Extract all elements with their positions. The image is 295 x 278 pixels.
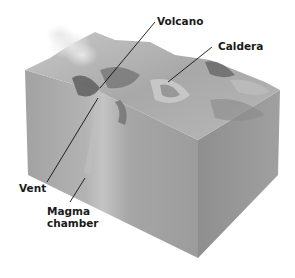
label-magma-line1: Magma [47, 205, 99, 217]
label-caldera: Caldera [218, 40, 263, 52]
label-magma-chamber: Magma chamber [47, 205, 99, 229]
label-vent: Vent [19, 182, 46, 194]
label-magma-line2: chamber [47, 217, 99, 229]
volcano-diagram: Volcano Caldera Vent Magma chamber [0, 0, 295, 278]
label-volcano: Volcano [157, 15, 203, 27]
